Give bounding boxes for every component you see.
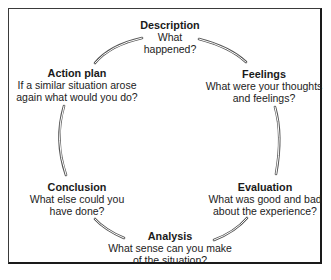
node-title: Description: [120, 19, 220, 31]
node-desc: What: [120, 31, 220, 43]
node-feelings: Feelings What were your thoughts and fee…: [202, 68, 326, 104]
node-desc: again what would you do?: [12, 91, 142, 103]
node-desc: If a similar situation arose: [12, 79, 142, 91]
node-description: Description What happened?: [120, 19, 220, 55]
node-desc: What was good and bad: [204, 193, 326, 205]
node-title: Conclusion: [20, 181, 134, 193]
node-desc: about the experience?: [204, 205, 326, 217]
node-desc: and feelings?: [202, 92, 326, 104]
node-desc: happened?: [120, 43, 220, 55]
node-action-plan: Action plan If a similar situation arose…: [12, 67, 142, 103]
node-analysis: Analysis What sense can you make of the …: [104, 230, 236, 266]
node-title: Feelings: [202, 68, 326, 80]
node-title: Evaluation: [204, 181, 326, 193]
node-evaluation: Evaluation What was good and bad about t…: [204, 181, 326, 217]
node-title: Analysis: [104, 230, 236, 242]
node-title: Action plan: [12, 67, 142, 79]
node-conclusion: Conclusion What else could you have done…: [20, 181, 134, 217]
node-desc: of the situation?: [104, 254, 236, 266]
node-desc: What else could you: [20, 193, 134, 205]
node-desc: have done?: [20, 205, 134, 217]
node-desc: What sense can you make: [104, 242, 236, 254]
node-desc: What were your thoughts: [202, 80, 326, 92]
